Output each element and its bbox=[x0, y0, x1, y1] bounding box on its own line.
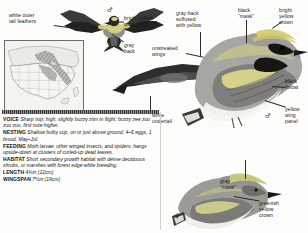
leader-gray-back-suffused bbox=[200, 32, 201, 56]
fact-value-voice: Sharp tsip; high, slightly buzzy ziim in… bbox=[3, 116, 150, 128]
fact-value-length: 4¾in (12cm) bbox=[26, 169, 54, 175]
fact-row-length: LENGTH 4¾in (12cm) bbox=[3, 169, 159, 175]
label-unstreaked-wings: unstreaked wings bbox=[152, 45, 178, 57]
label-white-outer-tail-feathers: white outer tail feathers bbox=[9, 12, 36, 24]
label-gray-back: gray back bbox=[124, 42, 135, 54]
fact-row-feeding: FEEDING Moth larvae, other winged insect… bbox=[3, 143, 159, 156]
field-guide-page: white outer tail feathers ♂ bright yello… bbox=[0, 0, 308, 233]
fact-key-length: LENGTH bbox=[3, 169, 24, 175]
label-gray-back-suffused: gray back suffused with yellow bbox=[176, 10, 201, 28]
fact-value-wingspan: 7½in (19cm) bbox=[32, 176, 60, 182]
leader-gray-mask bbox=[245, 160, 246, 179]
label-bright-yellow-wing-panel: bright yellow wing panel bbox=[124, 15, 153, 27]
fact-row-voice: VOICE Sharp tsip; high, slightly buzzy z… bbox=[3, 116, 159, 129]
fact-key-habitat: HABITAT bbox=[3, 156, 25, 162]
female-symbol: ♀ bbox=[175, 212, 180, 219]
fact-key-feeding: FEEDING bbox=[3, 143, 26, 149]
male-symbol-perched: ♂ bbox=[265, 112, 271, 119]
section-divider-rule bbox=[2, 110, 159, 114]
fact-key-nesting: NESTING bbox=[3, 129, 26, 135]
label-black-throat: black throat bbox=[285, 78, 298, 90]
fact-row-wingspan: WINGSPAN 7½in (19cm) bbox=[3, 176, 159, 182]
fact-value-habitat: Short secondary growth habitat with dens… bbox=[3, 156, 145, 168]
male-symbol-flying: ♂ bbox=[107, 6, 113, 13]
label-yellow-wing-panel: yellow wing panel bbox=[285, 106, 299, 124]
fact-key-wingspan: WINGSPAN bbox=[3, 176, 31, 182]
label-black-mask: black “mask” bbox=[238, 7, 254, 19]
fact-value-nesting: Shallow bulky cup, on or just above grou… bbox=[3, 129, 152, 141]
label-greenish-yellow-crown: greenish yellow crown bbox=[259, 200, 279, 218]
natural-history-facts: VOICE Sharp tsip; high, slightly buzzy z… bbox=[3, 116, 159, 183]
fact-key-voice: VOICE bbox=[3, 116, 19, 122]
label-gray-mask: gray “mask” bbox=[220, 178, 236, 190]
leader-black-mask bbox=[246, 20, 247, 43]
fact-row-nesting: NESTING Shallow bulky cup, on or just ab… bbox=[3, 129, 159, 142]
vertical-separator bbox=[160, 112, 161, 230]
fact-row-habitat: HABITAT Short secondary growth habitat w… bbox=[3, 156, 159, 169]
